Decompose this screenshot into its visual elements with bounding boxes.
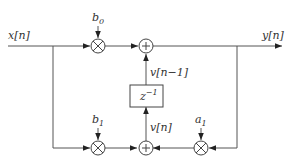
adder-bottom: [139, 141, 153, 155]
b0-label: b0: [92, 11, 104, 26]
input-to-b1-wire: [53, 46, 90, 148]
block-diagram: z−1 x[n] y[n] v[n−1] v[n] b0 b1 a1: [0, 0, 294, 164]
delayed-state-label: v[n−1]: [150, 66, 189, 79]
input-label: x[n]: [8, 29, 31, 42]
adder-top: [139, 39, 153, 53]
output-label: y[n]: [261, 29, 285, 42]
multiplier-a1: [194, 141, 208, 155]
multiplier-b1: [91, 141, 105, 155]
output-to-a1-wire: [209, 46, 237, 148]
b1-label: b1: [92, 113, 104, 128]
a1-label: a1: [195, 113, 207, 128]
multiplier-b0: [91, 39, 105, 53]
state-label: v[n]: [150, 121, 173, 134]
